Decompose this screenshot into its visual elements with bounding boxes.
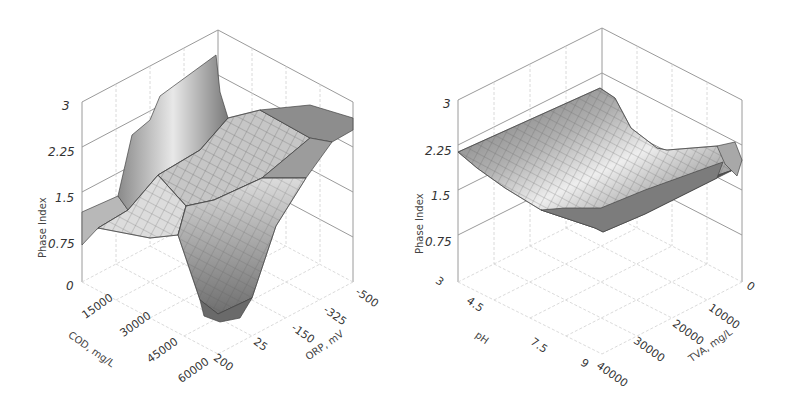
z-axis-title: Phase Index — [415, 193, 425, 254]
z-tick-label: 1.5 — [431, 190, 450, 202]
plot-frame-right — [395, 0, 790, 401]
surface-cod-orp — [82, 55, 353, 322]
z-tick-label: 3 — [62, 100, 70, 112]
z-tick-label: 1.5 — [55, 192, 74, 204]
z-axis-title: Phase Index — [38, 197, 48, 258]
z-tick-label: 3 — [443, 98, 451, 110]
z-tick-label: 0.75 — [425, 236, 452, 248]
z-tick-label: 0 — [66, 280, 74, 292]
z-tick-label: 0.75 — [48, 238, 75, 250]
surface-ph-tva — [458, 88, 742, 232]
surface-plot-cod-orp: 3 2.25 1.5 0.75 0 Phase Index 15000 3000… — [0, 0, 395, 401]
surface-plot-ph-tva: 3 2.25 1.5 0.75 Phase Index 3 4.5 7.5 9 … — [395, 0, 790, 401]
z-tick-label: 2.25 — [48, 146, 75, 158]
z-tick-label: 2.25 — [425, 145, 452, 157]
